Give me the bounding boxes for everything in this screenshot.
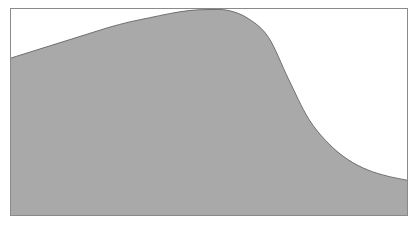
area-chart xyxy=(0,0,417,231)
